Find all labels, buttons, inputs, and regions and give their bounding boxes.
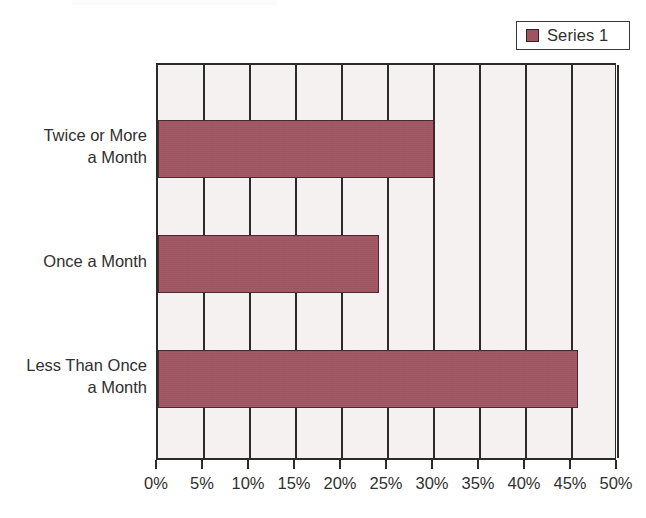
x-axis-tick-label: 50% [599,474,632,493]
x-axis-tick-label: 20% [323,474,356,493]
x-axis-tick [477,460,479,469]
x-axis-tick [293,460,295,469]
x-axis-tick-label: 0% [144,474,168,493]
bar-chart: Series 1 Twice or More a MonthOnce a Mon… [0,0,646,518]
x-axis-tick [155,460,157,469]
x-axis-tick-label: 40% [507,474,540,493]
x-axis-tick-label: 15% [277,474,310,493]
legend-label-series-1: Series 1 [547,26,608,45]
bar [158,120,434,178]
gridline [617,65,619,458]
legend-swatch-icon [526,29,539,42]
x-axis-tick-label: 25% [369,474,402,493]
x-axis-tick [247,460,249,469]
x-axis-tick-label: 45% [553,474,586,493]
plot-area [156,63,616,460]
x-axis-tick [385,460,387,469]
x-axis-tick-label: 30% [415,474,448,493]
bar [158,235,379,293]
y-axis-label: Twice or More a Month [0,125,147,169]
y-axis-label: Less Than Once a Month [0,355,147,399]
x-axis-tick-label: 5% [190,474,214,493]
x-axis-tick [523,460,525,469]
x-axis-tick [339,460,341,469]
x-axis-tick [569,460,571,469]
bar [158,350,578,408]
x-axis-tick [615,460,617,469]
x-axis-tick-label: 10% [231,474,264,493]
bar-texture [159,351,577,407]
scan-artifact [72,0,277,5]
bar-texture [159,121,433,177]
x-axis-tick [431,460,433,469]
x-axis-tick-label: 35% [461,474,494,493]
x-axis-tick [201,460,203,469]
y-axis-label: Once a Month [0,251,147,273]
chart-legend: Series 1 [516,21,630,50]
bar-texture [159,236,378,292]
